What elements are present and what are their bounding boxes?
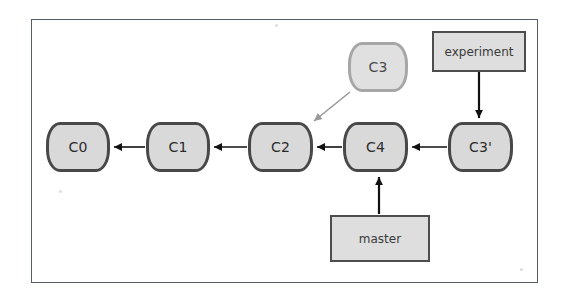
branch-label-master-text: master — [359, 233, 401, 245]
branch-label-experiment-text: experiment — [445, 46, 514, 58]
scan-speckle — [59, 190, 62, 193]
commit-label-c3: C3 — [368, 60, 387, 74]
diagram-canvas: C0 C1 C2 C4 C3' C3 experiment master — [0, 0, 564, 294]
commit-node-c4[interactable]: C4 — [343, 122, 408, 172]
commit-label-c2: C2 — [271, 140, 290, 154]
commit-node-c3-prime[interactable]: C3' — [448, 122, 513, 172]
commit-node-c0[interactable]: C0 — [46, 122, 110, 172]
scan-speckle — [275, 24, 278, 27]
commit-node-c2[interactable]: C2 — [248, 122, 313, 172]
commit-node-c1[interactable]: C1 — [146, 122, 210, 172]
commit-label-c1: C1 — [168, 140, 187, 154]
branch-label-master[interactable]: master — [330, 215, 430, 262]
scan-speckle — [520, 268, 523, 271]
commit-label-c0: C0 — [68, 140, 87, 154]
branch-label-experiment[interactable]: experiment — [432, 31, 526, 72]
commit-label-c3-prime: C3' — [469, 140, 492, 154]
commit-label-c4: C4 — [366, 140, 385, 154]
commit-node-c3[interactable]: C3 — [348, 42, 408, 92]
